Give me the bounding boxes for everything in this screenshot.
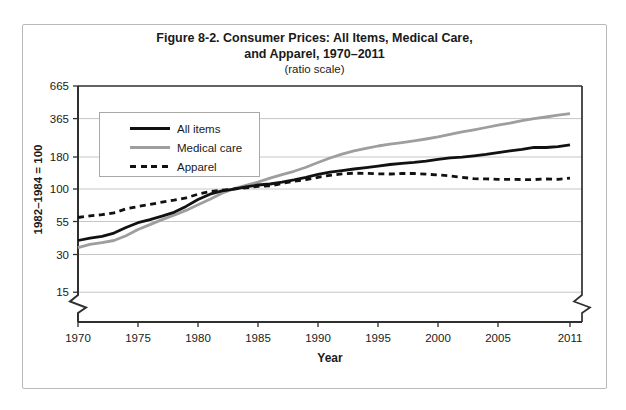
x-tick-label: 1980: [185, 332, 211, 344]
legend-item-all-items: All items: [130, 119, 259, 138]
x-tick-label: 1970: [65, 332, 91, 344]
y-tick-label: 55: [56, 216, 69, 228]
legend-line-medical-care-icon: [130, 146, 170, 149]
legend-item-apparel: Apparel: [130, 157, 259, 176]
legend-item-medical-care: Medical care: [130, 138, 259, 157]
series-apparel: [78, 173, 570, 217]
x-tick-label: 1975: [125, 332, 151, 344]
x-tick-label: 2000: [425, 332, 451, 344]
chart-canvas: 6653651801005530151970197519801985199019…: [0, 0, 626, 410]
legend-label-all-items: All items: [177, 123, 220, 135]
x-axis-title: Year: [230, 351, 430, 365]
y-tick-label: 100: [50, 183, 69, 195]
y-tick-label: 15: [56, 286, 69, 298]
y-axis-title: 1982–1984 = 100: [32, 115, 47, 265]
x-tick-label: 1985: [245, 332, 271, 344]
plot-frame-right-axis-break: [574, 86, 590, 322]
legend-label-apparel: Apparel: [177, 161, 217, 173]
y-tick-label: 180: [50, 151, 69, 163]
y-tick-label: 365: [50, 113, 69, 125]
legend: All items Medical care Apparel: [99, 112, 260, 177]
legend-line-apparel-icon: [130, 165, 170, 168]
legend-label-medical-care: Medical care: [177, 142, 242, 154]
x-tick-label: 2005: [485, 332, 511, 344]
y-tick-label: 665: [50, 80, 69, 92]
figure-page: { "figure": { "title_line1": "Figure 8-2…: [0, 0, 626, 410]
legend-line-all-items-icon: [130, 127, 170, 130]
x-tick-label: 1990: [305, 332, 331, 344]
y-tick-label: 30: [56, 249, 69, 261]
x-tick-label: 1995: [365, 332, 391, 344]
y-axis-break: [70, 86, 86, 322]
x-tick-label: 2011: [558, 332, 583, 344]
